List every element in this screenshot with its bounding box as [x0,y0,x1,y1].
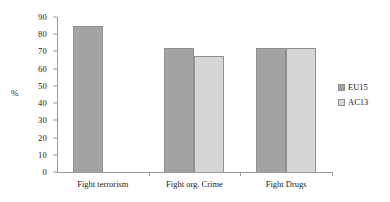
y-axis-tick-label: 70 [38,46,52,56]
bar-chart: % 9080706050403020100 Fight terrorismFig… [0,0,390,202]
legend-label: AC13 [348,97,368,107]
x-axis-tick-mark [332,172,333,176]
y-axis-tick-label: 10 [38,150,52,160]
bar-group [149,17,241,172]
y-axis-tick-label: 30 [38,115,52,125]
y-axis-tick-label: 90 [38,12,52,22]
bar-ac13 [286,48,316,172]
y-axis-tick-label: 0 [43,167,52,177]
bar-eu15 [256,48,286,172]
bar-group [240,17,332,172]
legend-swatch-icon [338,99,345,106]
y-axis-tick-label: 80 [38,29,52,39]
y-axis-tick-label: 20 [38,133,52,143]
legend: EU15 AC13 [338,82,368,112]
y-axis-tick-label: 40 [38,98,52,108]
category-label: Fight Drugs [240,179,332,189]
legend-item-ac13[interactable]: AC13 [338,97,368,107]
bar-ac13 [194,56,224,172]
category-label: Fight org. Crime [149,179,241,189]
legend-swatch-icon [338,84,345,91]
y-axis-tick-label: 60 [38,64,52,74]
y-axis-tick-label: 50 [38,81,52,91]
y-axis-title: % [11,88,19,98]
x-axis-line [57,172,332,173]
legend-item-eu15[interactable]: EU15 [338,82,368,92]
category-label: Fight terrorism [57,179,149,189]
legend-label: EU15 [348,82,368,92]
x-axis-tick-mark [240,172,241,176]
bar-eu15 [164,48,194,172]
bar-group [57,17,149,172]
plot-area [57,17,332,172]
x-axis-tick-mark [149,172,150,176]
bar-eu15 [73,26,103,172]
